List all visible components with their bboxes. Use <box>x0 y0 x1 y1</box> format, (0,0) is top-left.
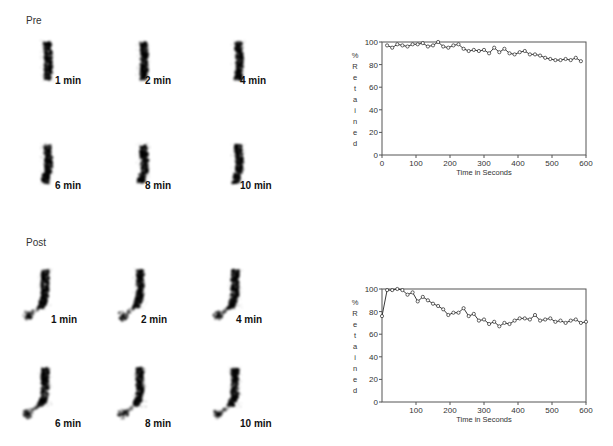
panel-label-post: Post <box>26 237 46 248</box>
data-point-marker <box>437 40 440 43</box>
x-tick-label: 600 <box>579 159 593 168</box>
y-tick-label: 0 <box>374 151 379 160</box>
data-point-marker <box>472 48 475 51</box>
x-tick-label: 500 <box>545 406 559 415</box>
y-axis-title-char: e <box>353 375 357 384</box>
x-axis-title: Time in Seconds <box>456 168 512 177</box>
data-point-marker <box>477 49 480 52</box>
y-tick-label: 60 <box>369 330 378 339</box>
y-tick-label: 80 <box>369 61 378 70</box>
data-point-marker <box>554 320 557 323</box>
scan-time-label: 6 min <box>55 418 81 429</box>
data-point-marker <box>498 325 501 328</box>
y-tick-label: 20 <box>369 375 378 384</box>
data-point-marker <box>477 319 480 322</box>
data-point-marker <box>559 319 562 322</box>
data-point-marker <box>549 317 552 320</box>
data-point-marker <box>533 313 536 316</box>
data-point-marker <box>421 42 424 45</box>
data-point-marker <box>564 321 567 324</box>
x-tick-label: 500 <box>545 159 559 168</box>
data-point-marker <box>396 287 399 290</box>
x-tick-label: 400 <box>511 159 525 168</box>
data-point-marker <box>493 46 496 49</box>
scan-image-pre-2-min <box>105 34 175 104</box>
scan-image-pre-6-min <box>9 137 79 207</box>
y-axis-title-char: e <box>353 128 357 137</box>
data-point-marker <box>401 289 404 292</box>
x-tick-label: 0 <box>380 159 385 168</box>
data-point-marker <box>523 317 526 320</box>
data-point-marker <box>447 313 450 316</box>
data-point-marker <box>533 53 536 56</box>
y-axis-title-char: e <box>353 320 357 329</box>
data-point-marker <box>391 289 394 292</box>
y-tick-label: 100 <box>365 38 379 47</box>
data-point-marker <box>416 43 419 46</box>
data-point-marker <box>569 59 572 62</box>
data-point-marker <box>416 300 419 303</box>
data-point-marker <box>493 320 496 323</box>
data-point-marker <box>488 322 491 325</box>
scan-image-pre-8-min <box>105 137 175 207</box>
data-point-marker <box>554 59 557 62</box>
data-point-marker <box>396 43 399 46</box>
scan-time-label: 2 min <box>141 314 167 325</box>
data-point-marker <box>442 308 445 311</box>
scan-time-label: 1 min <box>51 314 77 325</box>
data-point-marker <box>539 54 542 57</box>
data-point-marker <box>411 43 414 46</box>
data-point-marker <box>528 318 531 321</box>
panel-label-pre: Pre <box>26 15 42 26</box>
data-point-marker <box>431 302 434 305</box>
data-point-marker <box>391 46 394 49</box>
data-point-marker <box>401 44 404 47</box>
data-point-marker <box>431 44 434 47</box>
data-point-marker <box>462 307 465 310</box>
data-point-marker <box>467 49 470 52</box>
scan-time-label: 6 min <box>55 180 81 191</box>
data-point-marker <box>508 322 511 325</box>
y-tick-label: 40 <box>369 353 378 362</box>
scan-time-label: 4 min <box>236 314 262 325</box>
x-tick-label: 200 <box>443 406 457 415</box>
data-point-marker <box>472 312 475 315</box>
data-point-marker <box>564 57 567 60</box>
data-point-marker <box>584 320 587 323</box>
scan-time-label: 8 min <box>145 180 171 191</box>
scan-time-label: 10 min <box>240 180 272 191</box>
y-axis-title-char: R <box>352 309 358 318</box>
data-point-marker <box>452 44 455 47</box>
data-point-marker <box>544 318 547 321</box>
data-point-marker <box>503 321 506 324</box>
data-point-marker <box>462 47 465 50</box>
y-axis-title-char: i <box>354 106 356 115</box>
data-point-marker <box>406 45 409 48</box>
x-tick-label: 300 <box>477 406 491 415</box>
data-point-marker <box>574 318 577 321</box>
data-point-marker <box>437 304 440 307</box>
x-axis-title: Time in Seconds <box>456 415 512 424</box>
data-point-marker <box>482 318 485 321</box>
y-axis-title-char: e <box>353 73 357 82</box>
data-point-marker <box>513 53 516 56</box>
data-point-marker <box>421 295 424 298</box>
data-point-marker <box>559 59 562 62</box>
x-tick-label: 400 <box>511 406 525 415</box>
scan-image-pre-4-min <box>200 34 270 104</box>
data-point-marker <box>574 56 577 59</box>
x-tick-label: 200 <box>443 159 457 168</box>
data-point-marker <box>442 45 445 48</box>
y-axis-title-char: n <box>353 364 357 373</box>
data-point-marker <box>579 60 582 63</box>
y-tick-label: 80 <box>369 308 378 317</box>
y-tick-label: 20 <box>369 128 378 137</box>
scan-image-pre-1-min <box>9 34 79 104</box>
data-point-marker <box>482 48 485 51</box>
data-point-marker <box>579 321 582 324</box>
y-axis-title-char: d <box>353 386 357 395</box>
data-point-marker <box>544 56 547 59</box>
plot-frame <box>382 289 586 402</box>
scan-time-label: 10 min <box>240 418 272 429</box>
y-axis-title-char: d <box>353 139 357 148</box>
